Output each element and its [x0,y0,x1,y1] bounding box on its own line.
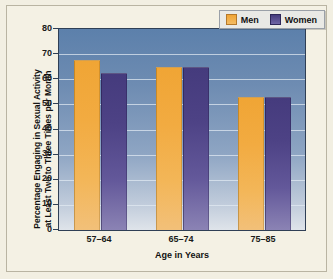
legend-label-women: Women [285,15,317,25]
x-axis-tick-label: 57–64 [58,234,140,244]
y-axis-tick-label: 70 [30,49,52,58]
y-axis-tick-label: 80 [30,24,52,33]
bar-women-1 [183,67,209,230]
y-axis-tick-label: 10 [30,199,52,208]
y-axis-tick-label: 20 [30,174,52,183]
bar-women-2 [265,97,291,230]
y-axis-tick-mark [53,53,58,54]
legend-swatch-women-icon [270,14,281,25]
y-axis-tick-mark [53,179,58,180]
y-axis-label-container: Percentage Engaging in Sexual Activity a… [10,25,30,230]
y-axis-tick-label: 50 [30,99,52,108]
y-axis-tick-mark [53,129,58,130]
y-axis-tick-mark [53,103,58,104]
bar-women-0 [101,73,127,230]
y-axis-tick-label: 0 [30,225,52,234]
y-axis-tick-mark [53,204,58,205]
legend-label-men: Men [241,15,259,25]
bar-men-2 [238,97,264,230]
chart-figure: Percentage Engaging in Sexual Activity a… [0,0,333,279]
x-axis-tick-labels: 57–6465–7475–85 [58,234,306,248]
y-axis-tick-label: 60 [30,74,52,83]
legend-entry-men: Men [226,14,259,25]
legend-entry-women: Women [270,14,317,25]
gridline [59,54,305,55]
y-axis-tick-label: 40 [30,124,52,133]
y-axis-tick-mark [53,28,58,29]
y-axis-tick-mark [53,78,58,79]
bar-men-1 [156,67,182,230]
x-axis-tick-label: 65–74 [140,234,222,244]
y-axis-tick-mark [53,154,58,155]
chart-legend: Men Women [219,10,325,29]
y-axis-tick-labels: 01020304050607080 [30,28,52,231]
y-axis-tick-mark [53,229,58,230]
legend-swatch-men-icon [226,14,237,25]
x-axis-tick-label: 75–85 [222,234,304,244]
plot-area [58,28,306,231]
x-axis-label: Age in Years [58,250,306,260]
bar-men-0 [74,60,100,230]
y-axis-tick-label: 30 [30,149,52,158]
